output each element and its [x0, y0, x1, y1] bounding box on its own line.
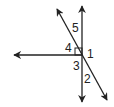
angle-label-2: 2 — [84, 72, 91, 86]
angle-label-4: 4 — [65, 41, 72, 55]
angle-label-1: 1 — [87, 47, 94, 61]
angle-label-5: 5 — [72, 21, 79, 35]
angle-label-3: 3 — [73, 59, 80, 73]
angle-diagram-canvas: 5 4 1 3 2 — [0, 0, 114, 107]
angle-diagram: 5 4 1 3 2 — [0, 0, 114, 107]
